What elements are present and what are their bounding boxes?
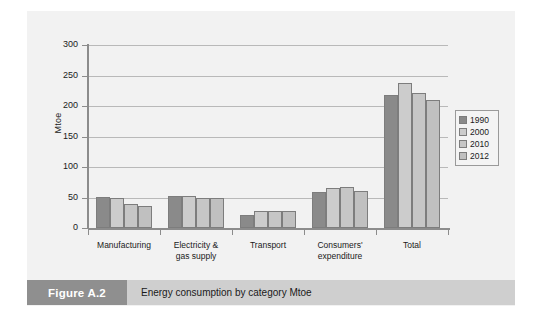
figure-caption: Figure A.2 Energy consumption by categor… [27, 280, 515, 305]
x-category-label-line: expenditure [294, 251, 386, 262]
legend-swatch [459, 152, 467, 160]
x-tick-mark [160, 228, 161, 235]
chart-legend: 1990200020102012 [455, 110, 499, 166]
legend-label: 2012 [470, 152, 489, 161]
x-category-label-line: Total [366, 240, 458, 251]
figure-number: Figure A.2 [27, 280, 127, 305]
x-tick-mark [304, 228, 305, 235]
legend-item: 2000 [459, 126, 495, 138]
legend-swatch [459, 116, 467, 124]
x-tick-mark [448, 228, 449, 235]
legend-item: 1990 [459, 114, 495, 126]
bar-chart: 050100150200250300 Mtoe ManufacturingEle… [0, 0, 542, 278]
x-tick-mark [376, 228, 377, 235]
legend-label: 1990 [470, 116, 489, 125]
x-tick-mark [232, 228, 233, 235]
legend-label: 2010 [470, 140, 489, 149]
figure-title: Energy consumption by category Mtoe [127, 280, 515, 305]
x-category-label-line: gas supply [150, 251, 242, 262]
legend-swatch [459, 128, 467, 136]
x-category-label: Total [366, 240, 458, 251]
figure-container: 050100150200250300 Mtoe ManufacturingEle… [0, 0, 542, 330]
legend-item: 2010 [459, 138, 495, 150]
legend-swatch [459, 140, 467, 148]
legend-label: 2000 [470, 128, 489, 137]
x-tick-mark [88, 228, 89, 235]
legend-item: 2012 [459, 150, 495, 162]
